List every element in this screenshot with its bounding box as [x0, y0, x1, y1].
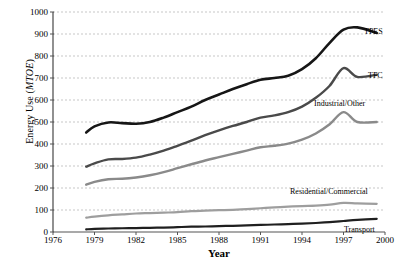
series-label-industrial-other: Industrial/Other — [314, 100, 365, 108]
series-label-tfc: TFC — [368, 72, 383, 80]
x-axis-title: Year — [53, 247, 385, 259]
series-label-residential-commercial: Residential/Commercial — [290, 188, 368, 196]
series-line-tfc — [86, 68, 377, 167]
series-line-transport — [86, 219, 377, 230]
series-label-tpes: TPES — [364, 28, 383, 36]
plot-canvas — [0, 0, 402, 264]
series-label-transport: Transport — [344, 226, 375, 234]
energy-use-line-chart: Energy Use (MTOE) 0100200300400500600700… — [0, 0, 402, 264]
